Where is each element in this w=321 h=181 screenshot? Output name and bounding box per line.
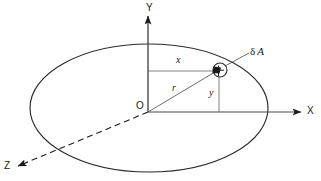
x-axis-label: X — [307, 106, 314, 116]
area-symbol: A — [257, 45, 264, 57]
z-axis-line — [18, 112, 148, 166]
area-leader-line — [225, 53, 249, 66]
figure-container: Y X Z O x r y δA — [0, 0, 321, 181]
diagram-canvas — [0, 0, 321, 181]
area-element-label: δA — [250, 46, 264, 57]
x-distance-label: x — [176, 55, 180, 65]
y-axis-label: Y — [146, 3, 153, 13]
y-distance-label: y — [209, 88, 213, 98]
origin-label: O — [136, 101, 144, 111]
radius-label: r — [172, 83, 176, 93]
z-axis-label: Z — [4, 161, 10, 171]
delta-symbol: δ — [250, 45, 255, 57]
plane-ellipse — [30, 44, 268, 172]
